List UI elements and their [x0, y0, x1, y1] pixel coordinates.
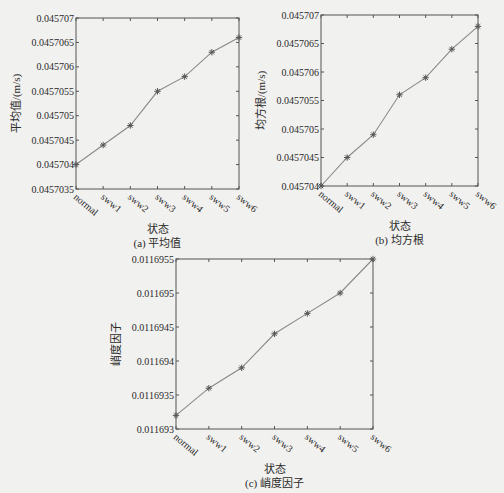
asterisk-marker [100, 142, 106, 148]
y-tick-label: 0.0116935 [132, 390, 174, 401]
x-tick-label: normal [172, 431, 201, 458]
asterisk-marker [304, 310, 310, 316]
asterisk-marker [206, 385, 212, 391]
plot-frame [76, 18, 239, 189]
figure-caption: (b) 均方根 [375, 233, 424, 247]
chart-rms: 0.0457040.04570450.0457050.04570550.0457… [254, 10, 499, 248]
asterisk-marker [154, 88, 160, 94]
y-tick-label: 0.045706 [282, 67, 320, 78]
x-tick-label: sww6 [369, 431, 394, 454]
x-tick-label: sww3 [270, 431, 295, 454]
x-tick-label: sww4 [303, 431, 328, 454]
y-tick-label: 0.045707 [37, 13, 75, 24]
y-tick-label: 0.045706 [37, 61, 75, 72]
asterisk-marker [236, 34, 242, 40]
asterisk-marker [73, 161, 79, 167]
x-tick-label: sww3 [153, 191, 178, 214]
x-tick-label: normal [72, 191, 101, 218]
y-tick-label: 0.011695 [137, 288, 174, 299]
y-tick-label: 0.011694 [137, 356, 174, 367]
asterisk-marker [344, 154, 350, 160]
y-tick-label: 0.0457065 [32, 37, 75, 48]
series-line [321, 26, 478, 186]
x-tick-label: sww4 [421, 188, 446, 211]
x-tick-label: sww2 [126, 191, 151, 214]
y-tick-label: 0.0116945 [132, 322, 174, 333]
asterisk-marker [181, 73, 187, 79]
x-axis-label: 状态 [147, 222, 169, 235]
figure-caption: (c) 峭度因子 [245, 476, 304, 490]
asterisk-marker [396, 92, 402, 98]
x-tick-label: sww2 [369, 188, 394, 211]
y-tick-label: 0.0457055 [32, 86, 75, 97]
x-tick-label: sww3 [395, 188, 420, 211]
y-tick-label: 0.0457035 [32, 184, 75, 195]
asterisk-marker [238, 365, 244, 371]
y-tick-label: 0.045704 [282, 181, 320, 192]
x-tick-label: sww6 [235, 191, 260, 214]
x-tick-label: sww6 [474, 188, 499, 211]
x-axis-label: 状态 [389, 219, 411, 232]
chart-mean: 0.04570350.0457040.04570450.0457050.0457… [10, 13, 260, 251]
figure-canvas: 0.04570350.0457040.04570450.0457050.0457… [0, 0, 504, 493]
y-axis-label: 平均值/(m/s) [10, 74, 23, 134]
x-tick-label: sww2 [237, 431, 262, 454]
asterisk-marker [173, 412, 179, 418]
x-tick-label: sww4 [180, 191, 205, 214]
x-tick-label: sww5 [208, 191, 233, 214]
y-tick-label: 0.0457065 [277, 38, 320, 49]
x-tick-label: sww1 [205, 431, 230, 454]
y-tick-label: 0.045705 [282, 124, 320, 135]
x-tick-label: sww1 [343, 188, 368, 211]
y-tick-label: 0.045704 [37, 159, 75, 170]
y-tick-label: 0.045707 [282, 10, 320, 21]
y-axis-label: 峭度因子 [109, 322, 122, 366]
x-tick-label: sww1 [99, 191, 124, 214]
y-tick-label: 0.0457055 [277, 95, 320, 106]
chart-kurtosis-factor: 0.0116930.01169350.0116940.01169450.0116… [109, 254, 394, 491]
x-axis-label: 状态 [264, 462, 286, 475]
x-tick-label: sww5 [336, 431, 361, 454]
asterisk-marker [370, 132, 376, 138]
figure-caption: (a) 平均值 [134, 237, 182, 250]
x-tick-label: sww5 [448, 188, 473, 211]
y-tick-label: 0.045705 [37, 110, 75, 121]
y-tick-label: 0.0457045 [277, 152, 320, 163]
y-axis-label: 均方根/(m/s) [254, 71, 268, 131]
y-tick-label: 0.0457045 [32, 135, 75, 146]
y-tick-label: 0.0116955 [132, 254, 174, 265]
asterisk-marker [422, 75, 428, 81]
asterisk-marker [127, 122, 133, 128]
plot-frame [176, 259, 373, 429]
series-line [176, 259, 373, 415]
x-tick-label: normal [317, 188, 346, 215]
y-tick-label: 0.011693 [137, 424, 174, 435]
